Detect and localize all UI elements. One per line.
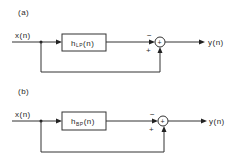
output-label-b: y(n) [209, 117, 225, 126]
arrow-output-a [199, 40, 205, 45]
input-label-b: x(n) [15, 110, 31, 119]
sum-symbol-b: + [161, 118, 166, 125]
sum-symbol-a: + [158, 39, 163, 46]
arrow-to-sum-b [152, 119, 158, 124]
arrow-to-filter-b [56, 119, 62, 124]
plus-sign-b: + [149, 125, 154, 134]
arrow-output-b [201, 119, 207, 124]
filter-label-a: hLP(n) [71, 39, 94, 49]
panel-label-a: (a) [18, 8, 29, 17]
panel-label-b: (b) [18, 87, 29, 96]
diagram-b: (b) x(n) hBP(n) + − + y(n) [12, 87, 225, 152]
diagram-a: (a) x(n) hLP(n) + − + y(n) [12, 8, 224, 72]
arrow-bypass-b [162, 126, 167, 132]
minus-sign-b: − [150, 110, 155, 119]
arrow-to-sum-a [149, 40, 155, 45]
plus-sign-a: + [146, 46, 151, 55]
input-label-a: x(n) [15, 31, 31, 40]
output-label-a: y(n) [208, 38, 224, 47]
arrow-bypass-a [158, 47, 163, 53]
arrow-to-filter-a [56, 40, 62, 45]
bypass-path-b [41, 121, 164, 152]
minus-sign-a: − [147, 31, 152, 40]
filter-label-b: hBP(n) [71, 117, 95, 127]
block-diagrams: (a) x(n) hLP(n) + − + y(n) (b) x(n) hBP(… [0, 0, 236, 165]
bypass-path-a [41, 42, 160, 72]
